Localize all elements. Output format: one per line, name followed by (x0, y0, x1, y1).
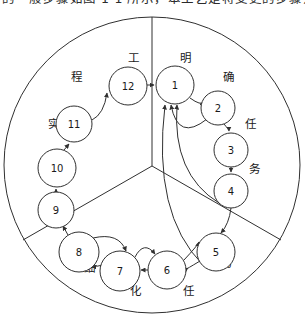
edge-5-to-1-feedback (162, 105, 203, 265)
edge-8-to-9 (63, 226, 68, 235)
divider-lower-right (152, 166, 281, 240)
node-1[interactable]: 1 (156, 66, 194, 104)
node-4[interactable]: 4 (214, 174, 248, 208)
node-10-label: 10 (51, 163, 64, 174)
sector-char-que: 确 (223, 70, 234, 84)
node-3[interactable]: 3 (214, 133, 248, 167)
node-9-label: 9 (53, 205, 59, 216)
sector-char-gong: 工 (128, 51, 139, 65)
node-7[interactable]: 7 (100, 251, 140, 291)
sector-char-ren-b: 任 (183, 284, 195, 298)
node-9[interactable]: 9 (38, 192, 74, 228)
node-6[interactable]: 6 (148, 251, 186, 289)
edge-5-to-6 (188, 261, 201, 268)
node-2[interactable]: 2 (201, 91, 235, 125)
node-12-label: 12 (122, 81, 135, 92)
sector-char-cheng: 程 (71, 70, 83, 84)
figure-root: 的一般步骤如图 1-1 所示，本工艺是将变更的步骤开 工 明 确 任 务 务 任… (0, 0, 305, 326)
edge-10-to-11 (64, 144, 69, 150)
edge-2-to-3 (224, 124, 229, 131)
edge-11-to-12 (92, 93, 107, 120)
node-6-label: 6 (164, 265, 170, 276)
node-1-label: 1 (172, 80, 178, 91)
caption-text: 的一般步骤如图 1-1 所示，本工艺是将变更的步骤开 (2, 0, 305, 7)
node-8[interactable]: 8 (59, 232, 99, 272)
sector-char-wu-r: 务 (249, 162, 261, 176)
node-11-label: 11 (68, 119, 81, 130)
nodes: 1 2 3 4 5 6 7 (38, 66, 248, 291)
edge-7-to-6 (135, 248, 155, 257)
node-3-label: 3 (228, 145, 234, 156)
node-4-label: 4 (228, 186, 234, 197)
node-5[interactable]: 5 (197, 233, 235, 271)
node-10[interactable]: 10 (38, 149, 76, 187)
node-12[interactable]: 12 (109, 67, 147, 105)
caption-strip: 的一般步骤如图 1-1 所示，本工艺是将变更的步骤开 (0, 0, 305, 15)
sector-char-ming: 明 (180, 51, 191, 65)
node-5-label: 5 (213, 247, 219, 258)
node-7-label: 7 (117, 266, 123, 277)
cycle-diagram: 工 明 确 任 务 务 任 化 细 施 实 程 (0, 14, 305, 326)
node-2-label: 2 (215, 103, 221, 114)
edge-4-to-5 (221, 208, 231, 233)
node-11[interactable]: 11 (56, 106, 92, 142)
sector-char-ren-r: 任 (245, 117, 257, 131)
node-8-label: 8 (76, 247, 82, 258)
